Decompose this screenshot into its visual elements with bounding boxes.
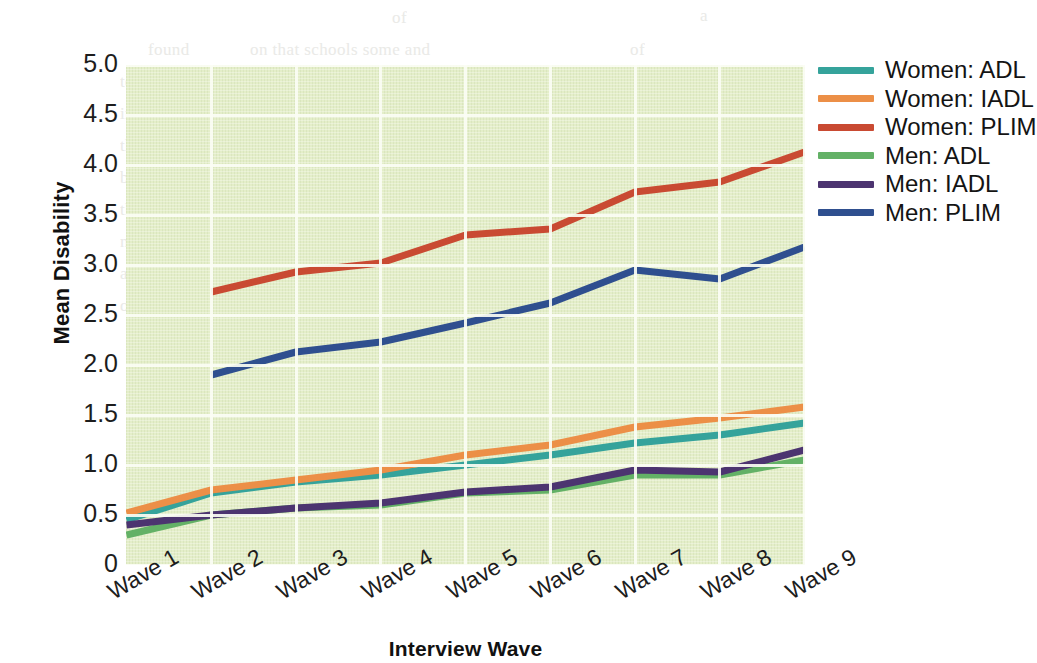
legend-label: Women: PLIM [885,115,1037,139]
gridline-vertical [718,65,721,565]
y-tick-label: 5.0 [6,49,118,78]
y-tick-label: 2.0 [6,349,118,378]
legend-color-swatch [818,209,874,216]
legend-item[interactable]: Men: IADL [818,170,1034,199]
legend-item[interactable]: Women: IADL [818,85,1034,114]
y-tick-label: 3.0 [6,249,118,278]
gridline-vertical [634,65,637,565]
legend-item[interactable]: Women: ADL [818,56,1034,85]
y-tick-label: 3.5 [6,199,118,228]
y-axis-ticks: 00.51.01.52.02.53.03.54.04.55.0 [0,0,118,663]
legend-item[interactable]: Men: ADL [818,142,1034,171]
legend-color-swatch [818,67,874,74]
legend-item[interactable]: Women: PLIM [818,113,1034,142]
legend-label: Women: ADL [885,58,1026,82]
legend-label: Women: IADL [885,87,1034,111]
gridline-vertical [210,65,213,565]
legend-label: Men: PLIM [885,201,1001,225]
y-tick-label: 0 [6,549,118,578]
gridline-vertical [803,65,805,565]
gridline-vertical [464,65,467,565]
legend-item[interactable]: Men: PLIM [818,199,1034,228]
series-line [211,152,804,292]
gridline-vertical [295,65,298,565]
legend-color-swatch [818,181,874,188]
y-tick-label: 2.5 [6,299,118,328]
legend-label: Men: ADL [885,144,990,168]
gridline-vertical [379,65,382,565]
y-tick-label: 4.5 [6,99,118,128]
y-tick-label: 4.0 [6,149,118,178]
legend-label: Men: IADL [885,172,998,196]
y-tick-label: 1.0 [6,449,118,478]
legend-color-swatch [818,152,874,159]
gridline-vertical [549,65,552,565]
y-tick-label: 1.5 [6,399,118,428]
plot-area [126,65,805,565]
legend-color-swatch [818,95,874,102]
legend-color-swatch [818,124,874,131]
chart-legend: Women: ADLWomen: IADLWomen: PLIMMen: ADL… [818,56,1034,227]
y-tick-label: 0.5 [6,499,118,528]
x-axis-title: Interview Wave [126,637,805,661]
